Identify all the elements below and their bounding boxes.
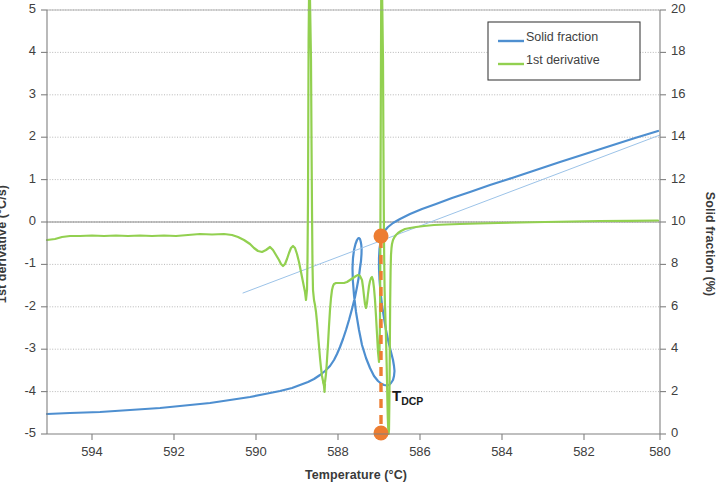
y-axis-left-tick--3: -3	[24, 340, 36, 355]
y-axis-left-title-text: 1st derivative (°C/s)	[0, 185, 9, 303]
x-axis-tick-584: 584	[472, 444, 532, 459]
x-axis-tick-586: 586	[390, 444, 450, 459]
x-axis-tick-590: 590	[226, 444, 286, 459]
tdcp-annotation: TDCP	[392, 387, 423, 407]
y-axis-left-tick-3: 3	[29, 86, 36, 101]
x-axis-tick-588: 588	[308, 444, 368, 459]
y-axis-left-tick-0: 0	[29, 213, 36, 228]
tdcp-marker-upper	[374, 229, 389, 244]
y-axis-left-tick-5: 5	[29, 1, 36, 16]
y-axis-left-tick-2: 2	[29, 128, 36, 143]
y-axis-right-tick-10: 10	[671, 213, 685, 228]
y-axis-left-tick-1: 1	[29, 171, 36, 186]
tdcp-marker-lower	[374, 426, 389, 441]
y-axis-right-tick-16: 16	[671, 86, 685, 101]
y-axis-right-tick-4: 4	[671, 340, 678, 355]
y-axis-left-tick-4: 4	[29, 43, 36, 58]
y-axis-right-ticks	[660, 10, 666, 434]
y-axis-right-title-text: Solid fraction (%)	[703, 192, 717, 297]
y-axis-right-tick-0: 0	[671, 425, 678, 440]
x-axis-tick-592: 592	[144, 444, 204, 459]
y-axis-left-tick--4: -4	[24, 383, 36, 398]
y-axis-left-ticks	[41, 10, 47, 434]
y-axis-right-tick-6: 6	[671, 298, 678, 313]
y-axis-left-tick--2: -2	[24, 298, 36, 313]
tdcp-annotation-main: T	[392, 387, 401, 404]
y-axis-right-tick-14: 14	[671, 128, 685, 143]
tdcp-annotation-subscript: DCP	[401, 395, 423, 407]
y-axis-right-tick-8: 8	[671, 255, 678, 270]
x-axis-title: Temperature (°C)	[0, 468, 712, 482]
x-axis-tick-580: 580	[630, 444, 690, 459]
y-axis-right-tick-18: 18	[671, 43, 685, 58]
x-axis-tick-594: 594	[62, 444, 122, 459]
y-axis-right-tick-2: 2	[671, 383, 678, 398]
y-axis-right-tick-20: 20	[671, 1, 685, 16]
x-axis-tick-582: 582	[554, 444, 614, 459]
y-axis-right-tick-12: 12	[671, 171, 685, 186]
legend-label-solid-fraction: Solid fraction	[526, 30, 638, 44]
legend-label-first-derivative: 1st derivative	[526, 53, 638, 67]
x-axis-title-text: Temperature (°C)	[305, 468, 407, 482]
y-axis-left-tick--1: -1	[24, 255, 36, 270]
y-axis-left-tick--5: -5	[24, 425, 36, 440]
